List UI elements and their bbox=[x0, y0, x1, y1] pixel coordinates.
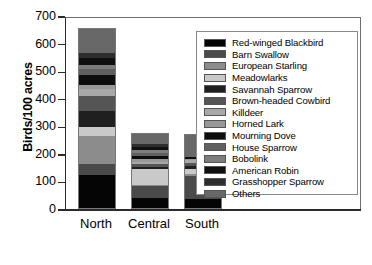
bar-segment bbox=[132, 134, 168, 143]
legend-swatch-icon bbox=[204, 190, 226, 198]
y-tick-label: 200 bbox=[35, 147, 56, 161]
y-axis-title: Birds/100 acres bbox=[21, 27, 35, 187]
legend-swatch-icon bbox=[204, 178, 226, 186]
legend-label: Grasshopper Sparrow bbox=[232, 176, 324, 187]
y-tick-mark bbox=[58, 154, 65, 155]
y-tick-mark bbox=[58, 209, 65, 210]
bar-segment bbox=[132, 198, 168, 208]
legend-item: Barn Swallow bbox=[204, 49, 357, 61]
bar-segment bbox=[132, 169, 168, 184]
legend-item: European Starling bbox=[204, 60, 357, 72]
y-tick-label: 300 bbox=[35, 119, 56, 133]
legend: Red-winged BlackbirdBarn SwallowEuropean… bbox=[196, 31, 358, 195]
legend-swatch-icon bbox=[204, 62, 226, 70]
y-tick-label: 700 bbox=[35, 9, 56, 23]
y-tick-mark bbox=[58, 127, 65, 128]
bar-segment bbox=[79, 164, 115, 175]
legend-swatch-icon bbox=[204, 85, 226, 93]
bar-segment bbox=[79, 111, 115, 128]
y-tick-label: 500 bbox=[35, 64, 56, 78]
legend-swatch-icon bbox=[204, 120, 226, 128]
bar-segment bbox=[185, 199, 221, 208]
bar-segment bbox=[79, 96, 115, 111]
legend-item: Mourning Dove bbox=[204, 130, 357, 142]
legend-swatch-icon bbox=[204, 155, 226, 163]
legend-label: House Sparrow bbox=[232, 142, 297, 153]
legend-label: Meadowlarks bbox=[232, 72, 287, 83]
legend-swatch-icon bbox=[204, 97, 226, 105]
legend-item: Red-winged Blackbird bbox=[204, 37, 357, 49]
legend-label: Others bbox=[232, 188, 260, 199]
legend-swatch-icon bbox=[204, 74, 226, 82]
legend-item: Others bbox=[204, 188, 357, 200]
legend-swatch-icon bbox=[204, 39, 226, 47]
bar-segment bbox=[79, 75, 115, 85]
legend-label: Bobolink bbox=[232, 153, 268, 164]
bar-segment bbox=[79, 29, 115, 52]
legend-item: Bobolink bbox=[204, 153, 357, 165]
legend-swatch-icon bbox=[204, 132, 226, 140]
y-tick-mark bbox=[58, 182, 65, 183]
y-tick-label: 400 bbox=[35, 92, 56, 106]
legend-item: Grasshopper Sparrow bbox=[204, 176, 357, 188]
legend-item: House Sparrow bbox=[204, 141, 357, 153]
bar-north bbox=[78, 28, 116, 209]
y-tick-label: 100 bbox=[35, 174, 56, 188]
bar-segment bbox=[79, 58, 115, 65]
legend-swatch-icon bbox=[204, 108, 226, 116]
y-tick-mark bbox=[58, 16, 65, 17]
x-axis-line bbox=[65, 209, 361, 211]
legend-item: Meadowlarks bbox=[204, 72, 357, 84]
legend-label: Horned Lark bbox=[232, 118, 284, 129]
legend-item: Savannah Sparrow bbox=[204, 83, 357, 95]
y-tick-label: 0 bbox=[49, 202, 56, 216]
y-tick-label: 600 bbox=[35, 37, 56, 51]
legend-item: Killdeer bbox=[204, 107, 357, 119]
bird-density-stacked-bar-chart: Birds/100 acres 0100200300400500600700 N… bbox=[0, 0, 372, 265]
x-label-south: South bbox=[170, 216, 234, 231]
legend-swatch-icon bbox=[204, 166, 226, 174]
bar-segment bbox=[79, 89, 115, 96]
y-tick-mark bbox=[58, 72, 65, 73]
legend-item: American Robin bbox=[204, 165, 357, 177]
bar-central bbox=[131, 133, 169, 209]
legend-label: Savannah Sparrow bbox=[232, 84, 312, 95]
legend-label: Brown-headed Cowbird bbox=[232, 95, 330, 106]
legend-label: Barn Swallow bbox=[232, 49, 289, 60]
legend-swatch-icon bbox=[204, 143, 226, 151]
y-tick-mark bbox=[58, 99, 65, 100]
bar-segment bbox=[132, 186, 168, 198]
y-tick-mark bbox=[58, 44, 65, 45]
bar-segment bbox=[79, 127, 115, 135]
legend-label: American Robin bbox=[232, 165, 299, 176]
legend-label: Mourning Dove bbox=[232, 130, 296, 141]
legend-label: European Starling bbox=[232, 60, 307, 71]
legend-label: Red-winged Blackbird bbox=[232, 37, 323, 48]
legend-item: Horned Lark bbox=[204, 118, 357, 130]
legend-item: Brown-headed Cowbird bbox=[204, 95, 357, 107]
legend-label: Killdeer bbox=[232, 107, 263, 118]
bar-segment bbox=[79, 136, 115, 165]
bar-segment bbox=[79, 175, 115, 208]
legend-swatch-icon bbox=[204, 50, 226, 58]
